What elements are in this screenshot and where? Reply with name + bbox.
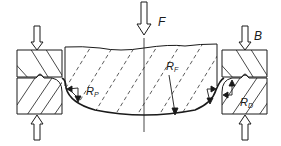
workpiece [40,40,249,130]
right-die [215,26,275,140]
right-lower-block [222,75,275,118]
final-radius-indicator [169,75,178,115]
forming-diagram: F [0,0,281,146]
punch-radius-label: RP [86,85,99,98]
right-bottom-arrow-icon [239,115,251,140]
die-radius-label: RD [240,96,253,109]
right-upper-block [215,48,270,80]
left-top-arrow-icon [31,26,43,50]
left-die [10,26,70,140]
final-radius-label: RF [166,60,179,73]
right-top-arrow-icon [239,26,251,50]
left-bottom-arrow-icon [31,115,43,140]
blank-holder-label: B [254,29,262,43]
left-lower-block [17,75,70,118]
force-arrow-icon [137,2,151,35]
force-label: F [158,15,166,29]
left-upper-block [10,48,65,80]
